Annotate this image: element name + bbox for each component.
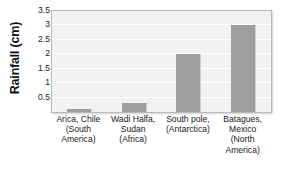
x-axis-category-label-line: (North (212, 134, 273, 144)
y-axis-tick-label: 2.5 (38, 34, 50, 44)
x-axis-category-label-line: Wadi Halfa, (103, 114, 164, 124)
x-axis-category-label-line: (South (48, 124, 109, 134)
rainfall-bar-chart: Rainfall (cm) 0.511.522.533.5 Arica, Chi… (0, 0, 283, 175)
x-axis-category-label-line: America) (48, 134, 109, 144)
y-axis-tick-label: 1 (45, 77, 50, 87)
y-axis-tick-label: 1.5 (38, 63, 50, 73)
x-axis-category-label-line: Batagues, (212, 114, 273, 124)
x-axis-category-label-line: (Africa) (103, 134, 164, 144)
plot-area (51, 10, 272, 113)
bar-series (52, 11, 271, 112)
x-axis-category-label-line: Mexico (212, 124, 273, 134)
x-axis-category-label: Wadi Halfa,Sudan(Africa) (103, 114, 164, 145)
x-axis-category-label: Arica, Chile(SouthAmerica) (48, 114, 109, 145)
x-axis-category-label: Batagues,Mexico(NorthAmerica) (212, 114, 273, 155)
x-axis-category-label-line: South pole, (158, 114, 219, 124)
x-axis-category-label-line: (Antarctica) (158, 124, 219, 134)
x-axis-category-label-line: Sudan (103, 124, 164, 134)
y-axis-tick-labels: 0.511.522.533.5 (28, 0, 50, 120)
bar (67, 109, 92, 112)
y-axis-tick-label: 3 (45, 19, 50, 29)
bar (122, 103, 147, 112)
y-axis-tick-label: 2 (45, 48, 50, 58)
y-axis-title: Rainfall (cm) (8, 21, 22, 93)
x-axis-category-label-line: Arica, Chile (48, 114, 109, 124)
y-axis-title-container: Rainfall (cm) (0, 0, 30, 115)
bar (231, 25, 256, 112)
x-axis-category-labels: Arica, Chile(SouthAmerica)Wadi Halfa,Sud… (51, 114, 272, 175)
x-axis-category-label: South pole,(Antarctica) (158, 114, 219, 134)
y-axis-tick-label: 0.5 (38, 92, 50, 102)
y-axis-tick-label: 3.5 (38, 5, 50, 15)
x-axis-category-label-line: America) (212, 145, 273, 155)
bar (176, 54, 201, 112)
